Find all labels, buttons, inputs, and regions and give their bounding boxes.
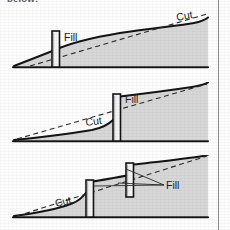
retaining-wall-1-a — [52, 31, 60, 67]
cross-section-panel-1: Fill Cut — [0, 8, 218, 76]
retaining-wall-2-a — [113, 94, 121, 141]
cross-section-panel-2: Fill Cut — [0, 82, 218, 150]
cut-label-1: Cut — [175, 8, 193, 23]
clipped-caption-text: below: — [7, 0, 38, 4]
fill-label-2: Fill — [125, 93, 138, 105]
cross-section-panel-3: Fill Cut — [0, 155, 218, 227]
fill-label-1: Fill — [64, 31, 77, 43]
retaining-wall-3-a — [86, 180, 94, 217]
retaining-wall-3-b — [126, 163, 134, 197]
diagram-page: below: — [0, 0, 230, 230]
page-column-rule — [218, 0, 219, 230]
fill-label-3: Fill — [166, 179, 179, 191]
cut-label-2: Cut — [85, 114, 103, 128]
